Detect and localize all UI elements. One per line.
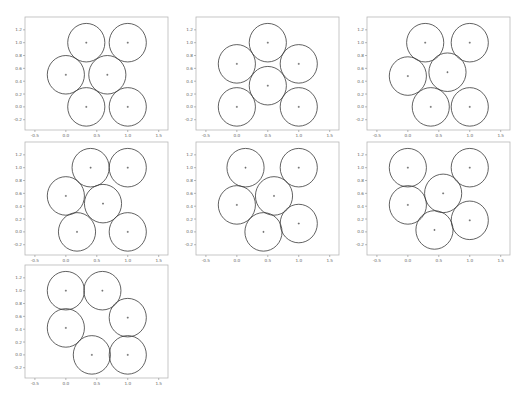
x-tick-label: 1.0	[295, 133, 302, 138]
x-tick-label: 1.0	[124, 381, 131, 386]
y-tick-label: 1.2	[357, 152, 364, 157]
y-tick-label: 1.0	[357, 165, 364, 170]
plot-frame	[367, 142, 510, 255]
x-tick-label: 1.5	[497, 258, 504, 263]
x-tick-label: 0.0	[63, 133, 70, 138]
y-tick-label: 1.2	[186, 152, 193, 157]
plot-frame	[25, 142, 168, 255]
y-tick-label: 0.4	[15, 327, 22, 332]
y-tick-label: 0.4	[186, 204, 193, 209]
y-tick-label: -0.2	[356, 117, 365, 122]
y-tick-label: 1.2	[15, 275, 22, 280]
x-tick-label: 1.0	[124, 133, 131, 138]
x-tick-label: -0.5	[31, 381, 40, 386]
x-tick-label: 1.5	[155, 258, 162, 263]
y-tick-label: 0.0	[15, 104, 22, 109]
y-tick-label: 1.2	[357, 27, 364, 32]
y-tick-label: 0.6	[357, 66, 364, 71]
circle-packing-plot-1: -0.50.00.51.01.5-0.20.00.20.40.60.81.01.…	[5, 17, 172, 142]
x-tick-label: 1.5	[155, 133, 162, 138]
y-tick-label: 0.2	[357, 92, 364, 97]
plot-frame	[25, 265, 168, 378]
plot-frame	[196, 17, 339, 130]
x-tick-label: 1.5	[326, 258, 333, 263]
y-tick-label: 0.6	[15, 314, 22, 319]
x-tick-label: -0.5	[202, 133, 211, 138]
y-tick-label: 0.0	[357, 229, 364, 234]
x-tick-label: 0.5	[93, 381, 100, 386]
x-tick-label: -0.5	[202, 258, 211, 263]
x-tick-label: 0.0	[234, 258, 241, 263]
x-tick-label: 0.0	[234, 133, 241, 138]
y-tick-label: 0.0	[186, 229, 193, 234]
x-tick-label: -0.5	[31, 133, 40, 138]
x-tick-label: 0.5	[435, 133, 442, 138]
x-tick-label: 1.0	[124, 258, 131, 263]
y-tick-label: 1.0	[15, 288, 22, 293]
y-tick-label: 0.6	[357, 191, 364, 196]
y-tick-label: 0.0	[15, 229, 22, 234]
y-tick-label: 1.2	[15, 27, 22, 32]
y-tick-label: 0.8	[15, 178, 22, 183]
y-tick-label: 0.4	[15, 79, 22, 84]
circle-packing-plot-7: -0.50.00.51.01.5-0.20.00.20.40.60.81.01.…	[5, 265, 172, 390]
y-tick-label: 0.2	[15, 340, 22, 345]
x-tick-label: -0.5	[373, 133, 382, 138]
y-tick-label: -0.2	[185, 117, 194, 122]
circle-packing-plot-3: -0.50.00.51.01.5-0.20.00.20.40.60.81.01.…	[347, 17, 514, 142]
circle-packing-plot-2: -0.50.00.51.01.5-0.20.00.20.40.60.81.01.…	[176, 17, 343, 142]
x-tick-label: 1.5	[497, 133, 504, 138]
x-tick-label: 0.5	[264, 133, 271, 138]
x-tick-label: 0.5	[93, 133, 100, 138]
x-tick-label: 0.0	[405, 133, 412, 138]
x-tick-label: 0.0	[405, 258, 412, 263]
y-tick-label: -0.2	[14, 242, 23, 247]
x-tick-label: 0.5	[264, 258, 271, 263]
plot-frame	[25, 17, 168, 130]
x-tick-label: 1.5	[326, 133, 333, 138]
x-tick-label: 0.5	[435, 258, 442, 263]
y-tick-label: 0.8	[186, 178, 193, 183]
y-tick-label: 0.0	[15, 352, 22, 357]
x-tick-label: 1.0	[295, 258, 302, 263]
x-tick-label: 0.0	[63, 258, 70, 263]
y-tick-label: 0.2	[186, 92, 193, 97]
y-tick-label: -0.2	[14, 365, 23, 370]
x-tick-label: 0.5	[93, 258, 100, 263]
plot-frame	[367, 17, 510, 130]
plot-frame	[196, 142, 339, 255]
y-tick-label: -0.2	[185, 242, 194, 247]
y-tick-label: -0.2	[356, 242, 365, 247]
y-tick-label: 0.8	[357, 53, 364, 58]
y-tick-label: 0.4	[15, 204, 22, 209]
y-tick-label: 0.0	[357, 104, 364, 109]
x-tick-label: -0.5	[373, 258, 382, 263]
y-tick-label: 1.2	[15, 152, 22, 157]
y-tick-label: 0.2	[186, 217, 193, 222]
y-tick-label: 0.4	[357, 204, 364, 209]
y-tick-label: 1.0	[357, 40, 364, 45]
x-tick-label: 1.0	[466, 258, 473, 263]
y-tick-label: 1.0	[186, 40, 193, 45]
y-tick-label: 1.2	[186, 27, 193, 32]
y-tick-label: 0.6	[186, 191, 193, 196]
y-tick-label: 0.2	[357, 217, 364, 222]
y-tick-label: 0.2	[15, 92, 22, 97]
y-tick-label: 0.6	[15, 66, 22, 71]
y-tick-label: 0.4	[357, 79, 364, 84]
y-tick-label: -0.2	[14, 117, 23, 122]
y-tick-label: 1.0	[15, 165, 22, 170]
y-tick-label: 0.4	[186, 79, 193, 84]
x-tick-label: 1.5	[155, 381, 162, 386]
y-tick-label: 0.8	[15, 301, 22, 306]
circle-packing-plot-6: -0.50.00.51.01.5-0.20.00.20.40.60.81.01.…	[347, 142, 514, 267]
y-tick-label: 0.0	[186, 104, 193, 109]
y-tick-label: 0.2	[15, 217, 22, 222]
x-tick-label: 1.0	[466, 133, 473, 138]
circle-packing-plot-4: -0.50.00.51.01.5-0.20.00.20.40.60.81.01.…	[5, 142, 172, 267]
y-tick-label: 0.6	[186, 66, 193, 71]
y-tick-label: 0.8	[15, 53, 22, 58]
circle-packing-plot-5: -0.50.00.51.01.5-0.20.00.20.40.60.81.01.…	[176, 142, 343, 267]
y-tick-label: 0.8	[186, 53, 193, 58]
x-tick-label: 0.0	[63, 381, 70, 386]
